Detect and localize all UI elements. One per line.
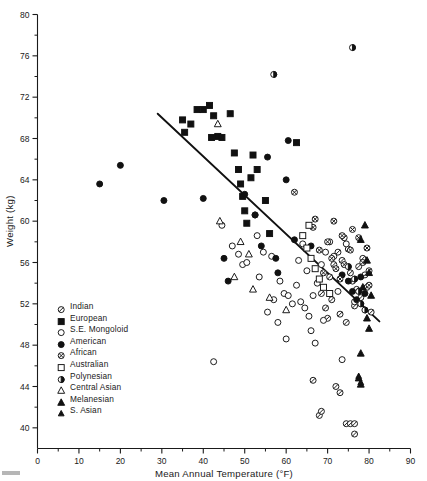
data-point	[283, 306, 290, 312]
data-point	[320, 317, 326, 323]
legend-item-label: S.E. Mongoloid	[70, 324, 128, 335]
data-point	[312, 340, 318, 346]
data-point	[238, 181, 244, 187]
y-tick-label: 56	[20, 258, 30, 268]
data-point	[275, 270, 281, 276]
data-point	[275, 319, 281, 325]
data-point	[361, 222, 368, 228]
legend-item-indian[interactable]: Indian	[57, 301, 94, 312]
data-point	[294, 140, 300, 146]
data-point	[209, 134, 215, 140]
data-point	[343, 319, 349, 325]
data-point	[318, 262, 324, 268]
data-point	[271, 71, 277, 77]
data-points-group	[97, 45, 375, 437]
legend-item-polynesian[interactable]: Polynesian	[57, 371, 112, 382]
data-point	[216, 217, 223, 223]
x-tick-label: 80	[364, 456, 374, 466]
y-tick-label: 64	[20, 175, 30, 185]
data-point	[345, 278, 351, 284]
legend-marker-circle-slashed-icon	[57, 301, 70, 312]
data-point	[329, 297, 335, 303]
data-point	[117, 162, 123, 168]
legend-item-s-e-mongoloid[interactable]: S.E. Mongoloid	[57, 324, 128, 335]
data-point	[242, 191, 248, 197]
data-point	[357, 350, 364, 356]
legend-item-label: Central Asian	[70, 382, 121, 393]
y-tick-label: 68	[20, 134, 30, 144]
data-point	[229, 243, 235, 249]
x-tick-label: 30	[157, 456, 167, 466]
data-point	[333, 266, 339, 272]
data-point	[347, 270, 353, 276]
legend-item-australian[interactable]: Australian	[57, 359, 108, 370]
legend-item-african[interactable]: African	[57, 347, 97, 358]
data-point	[320, 284, 326, 290]
y-tick-label: 72	[20, 92, 30, 102]
data-point	[364, 245, 370, 251]
data-point	[312, 216, 318, 222]
data-point	[265, 309, 271, 315]
data-point	[248, 175, 254, 181]
data-point	[206, 102, 212, 108]
x-tick-label: 20	[116, 456, 126, 466]
data-point	[200, 195, 206, 201]
data-point	[291, 189, 297, 195]
legend-item-central-asian[interactable]: Central Asian	[57, 382, 121, 393]
data-point	[273, 255, 279, 261]
y-tick-label: 80	[20, 10, 30, 20]
legend-item-american[interactable]: American	[57, 336, 106, 347]
data-point	[161, 198, 167, 204]
data-point	[214, 120, 221, 126]
data-point	[283, 177, 289, 183]
data-point	[329, 255, 335, 261]
data-point	[337, 390, 343, 396]
data-point	[331, 218, 337, 224]
legend-marker-glyph	[58, 387, 65, 393]
data-point	[97, 181, 103, 187]
legend-item-label: Melanesian	[70, 394, 114, 405]
data-point	[237, 238, 244, 244]
data-point	[304, 268, 310, 274]
figure-container: 4044485256606468727680010203040506070809…	[0, 0, 427, 481]
legend-item-s-asian[interactable]: S. Asian	[57, 405, 102, 416]
data-point	[362, 291, 368, 297]
y-tick-label: 44	[20, 382, 30, 392]
data-point	[312, 266, 318, 272]
legend-marker-glyph	[58, 411, 64, 416]
data-point	[308, 255, 314, 261]
data-point	[349, 288, 355, 294]
legend-item-label: Australian	[70, 359, 108, 370]
data-point	[188, 121, 194, 127]
data-point	[304, 245, 310, 251]
data-point	[194, 107, 200, 113]
data-point	[349, 45, 355, 51]
legend-item-label: S. Asian	[70, 405, 102, 416]
y-tick-label: 48	[20, 340, 30, 350]
data-point	[254, 233, 260, 239]
legend-item-european[interactable]: European	[57, 313, 107, 324]
data-point	[221, 255, 227, 261]
data-point	[252, 212, 258, 218]
data-point	[323, 249, 329, 255]
legend-item-label: American	[70, 336, 106, 347]
data-point	[345, 264, 351, 270]
data-point	[302, 305, 308, 311]
legend-marker-circle-filled-icon	[57, 336, 70, 347]
series-s-e-mongoloid	[211, 212, 358, 365]
data-point	[327, 291, 333, 297]
data-point	[308, 328, 314, 334]
data-point	[343, 241, 349, 247]
y-tick-label: 76	[20, 51, 30, 61]
data-point	[323, 305, 329, 311]
legend-item-melanesian[interactable]: Melanesian	[57, 394, 114, 405]
legend-marker-circle-halffilled-icon	[57, 371, 70, 382]
data-point	[318, 291, 324, 297]
data-point	[356, 373, 362, 378]
data-point	[368, 292, 375, 298]
data-point	[256, 274, 262, 280]
data-point	[231, 150, 237, 156]
data-point	[289, 301, 295, 307]
data-point	[267, 231, 273, 237]
data-point	[339, 233, 345, 239]
